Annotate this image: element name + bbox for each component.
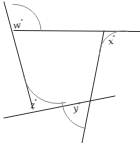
angle-label-y: y°: [72, 102, 81, 114]
degree-symbol-y: °: [77, 101, 81, 108]
angle-label-x: x°: [107, 34, 117, 46]
line-bottom-transversal: [4, 96, 115, 118]
angle-label-w: w°: [12, 18, 24, 30]
angle-label-z: z°: [29, 98, 39, 110]
geometry-figure: w° x° z° y°: [0, 0, 140, 143]
